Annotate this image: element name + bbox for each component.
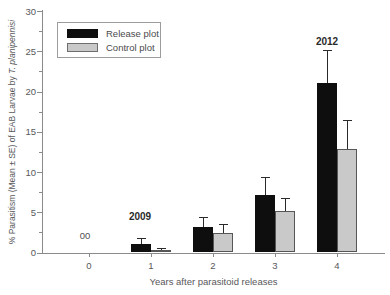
x-tick	[89, 254, 90, 257]
x-tick	[337, 254, 338, 257]
y-major-tick	[37, 212, 42, 213]
chart-figure: 051015202530012340020092012 % Parasitism…	[0, 0, 390, 295]
x-tick-label: 1	[141, 260, 161, 271]
y-tick-label: 20	[16, 86, 36, 97]
legend-swatch-release-icon	[67, 29, 98, 38]
bar-release-plot-year-2	[193, 227, 213, 253]
y-major-tick	[37, 172, 42, 173]
error-bar-cap	[281, 198, 290, 199]
x-tick	[275, 254, 276, 257]
x-tick-label: 0	[79, 260, 99, 271]
error-bar-cap	[343, 120, 352, 121]
y-axis-label-text: % Parasitism (Mean ± SE) of EAB Larvae b…	[7, 74, 17, 244]
x-axis-label: Years after parasitoid releases	[42, 276, 385, 287]
annotation-2012: 2012	[316, 35, 338, 46]
bar-release-plot-year-3	[255, 195, 275, 253]
error-bar-cap	[137, 238, 146, 239]
bar-control-plot-year-1	[151, 250, 171, 252]
x-tick-label: 2	[203, 260, 223, 271]
error-bar-cap	[261, 177, 270, 178]
y-major-tick	[37, 132, 42, 133]
y-major-tick	[37, 51, 42, 52]
error-bar-line	[327, 50, 328, 82]
x-tick-label: 3	[265, 260, 285, 271]
y-tick-label: 25	[16, 46, 36, 57]
y-major-tick	[37, 11, 42, 12]
y-tick-label: 30	[16, 6, 36, 17]
x-tick	[213, 254, 214, 257]
y-minor-tick	[39, 192, 42, 193]
error-bar-cap	[323, 50, 332, 51]
annotation-2009: 2009	[129, 211, 151, 222]
error-bar-cap	[219, 224, 228, 225]
error-bar-line	[347, 120, 348, 150]
bar-release-plot-year-4	[317, 83, 337, 253]
legend-label-control: Control plot	[106, 42, 155, 53]
y-minor-tick	[39, 152, 42, 153]
error-bar-cap	[199, 217, 208, 218]
y-minor-tick	[39, 232, 42, 233]
y-tick-label: 10	[16, 167, 36, 178]
error-bar-line	[265, 177, 266, 195]
bar-control-plot-year-3	[275, 211, 295, 253]
y-minor-tick	[39, 31, 42, 32]
legend-label-release: Release plot	[106, 28, 159, 39]
legend-swatch-control-icon	[67, 43, 98, 52]
x-tick	[151, 254, 152, 257]
y-axis-label: % Parasitism (Mean ± SE) of EAB Larvae b…	[7, 7, 19, 257]
y-major-tick	[37, 92, 42, 93]
bar-release-plot-year-1	[131, 244, 151, 253]
x-tick-label: 4	[327, 260, 347, 271]
y-axis-label-species: T. planipennisi	[7, 20, 17, 74]
legend: Release plot Control plot	[57, 22, 161, 58]
annotation-00: 00	[80, 229, 91, 240]
bar-control-plot-year-2	[213, 233, 233, 252]
error-bar-line	[203, 217, 204, 227]
error-bar-cap	[157, 248, 166, 249]
legend-item-control-plot: Control plot	[67, 42, 160, 53]
y-tick-label: 0	[16, 247, 36, 258]
y-major-tick	[37, 253, 42, 254]
error-bar-line	[285, 198, 286, 211]
legend-item-release-plot: Release plot	[67, 28, 160, 39]
y-tick-label: 15	[16, 126, 36, 137]
y-minor-tick	[39, 71, 42, 72]
y-axis-line	[42, 10, 43, 254]
bar-control-plot-year-4	[337, 149, 357, 252]
y-minor-tick	[39, 112, 42, 113]
y-tick-label: 5	[16, 207, 36, 218]
error-bar-line	[223, 224, 224, 233]
